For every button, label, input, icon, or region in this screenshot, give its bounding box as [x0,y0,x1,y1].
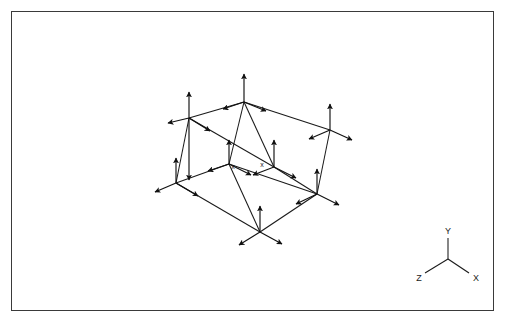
lattice-edges [176,102,330,232]
edge-depth-left [176,118,189,183]
edge-depth-mid [229,102,244,164]
edge-bottom-far [260,194,317,232]
site-marker-1: x [231,163,235,170]
arrow-left [208,164,229,171]
axis-z-line [425,259,448,273]
arrow-left [309,130,330,139]
coordinate-axes [425,238,469,273]
arrow-left [155,183,176,192]
arrow-right [317,194,339,205]
arrow-cluster-top-back-left [168,92,210,180]
axis-label-x: X [473,273,479,283]
arrow-cluster-top-front-right [296,169,339,205]
arrow-right [176,183,198,196]
edge-depth-right [317,130,330,194]
displacement-arrows [155,74,352,245]
axis-x-line [448,259,469,273]
axis-label-z: Z [416,273,422,283]
arrow-cluster-bot-front-mid [239,206,282,245]
arrow-left [239,232,260,245]
arrow-cluster-top-back-right [309,104,352,140]
figure-frame: x x Y X Z [11,11,494,311]
site-marker-2: x [260,161,264,168]
arrow-right [330,130,352,140]
edge-back-top-right [244,102,330,130]
edge-front-top-right [229,164,317,194]
arrow-left [168,118,189,123]
edge-oblique-upper [244,102,274,167]
arrow-right [189,118,210,131]
arrow-left [223,102,244,109]
arrow-cluster-top-back-mid [223,74,266,111]
arrow-right [260,232,282,244]
axis-label-y: Y [445,226,451,236]
edge-bottom-right [274,167,317,194]
lattice-diagram: x x Y X Z [12,12,495,312]
arrow-left [296,194,317,204]
arrow-left [253,167,274,175]
arrow-right [274,167,296,178]
